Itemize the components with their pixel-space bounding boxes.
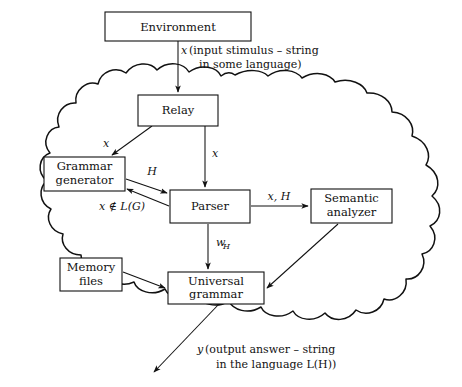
annotation-input-var: x <box>181 44 188 57</box>
node-parser-label: Parser <box>191 199 229 213</box>
edge-label-parser-to-universal-w-sub: H <box>222 242 231 251</box>
node-parser[interactable]: Parser <box>170 190 250 223</box>
diagram-canvas: Environment Relay Grammar generator Pars… <box>0 0 462 387</box>
annotation-input-line2: in some language) <box>199 58 302 71</box>
node-memory-files-label-line2: files <box>79 274 103 288</box>
edge-label-relay-to-parser-x: x <box>212 147 219 160</box>
node-grammar-generator-label-line1: Grammar <box>57 159 113 173</box>
node-relay[interactable]: Relay <box>138 95 218 126</box>
node-relay-label: Relay <box>162 103 195 117</box>
node-semantic-analyzer[interactable]: Semantic analyzer <box>311 189 392 223</box>
edge-label-relay-to-grammar-x: x <box>103 137 110 150</box>
edge-label-grammar-to-parser-H: H <box>146 165 157 178</box>
node-universal-grammar-label-line2: grammar <box>189 287 243 301</box>
node-grammar-generator[interactable]: Grammar generator <box>44 157 125 191</box>
node-environment[interactable]: Environment <box>105 12 251 41</box>
diagram-svg: Environment Relay Grammar generator Pars… <box>0 0 462 387</box>
annotation-output-line2: in the language L(H)) <box>216 358 336 371</box>
edge-label-parser-to-grammar-reject: x ∉ L(G) <box>99 200 145 213</box>
node-universal-grammar-label-line1: Universal <box>188 274 244 288</box>
annotation-output-var: y <box>196 343 204 356</box>
annotation-input: x (input stimulus – string in some langu… <box>181 44 319 71</box>
annotation-input-line1: (input stimulus – string <box>189 44 319 57</box>
node-universal-grammar[interactable]: Universal grammar <box>168 272 264 304</box>
node-environment-label: Environment <box>140 20 216 34</box>
edge-label-parser-to-semantic: x, H <box>268 190 291 203</box>
node-semantic-analyzer-label-line1: Semantic <box>324 191 379 205</box>
node-semantic-analyzer-label-line2: analyzer <box>327 205 377 219</box>
node-memory-files[interactable]: Memory files <box>60 258 122 291</box>
edge-universal-grammar-output <box>154 304 219 372</box>
annotation-output: y (output answer – string in the languag… <box>196 343 336 371</box>
node-grammar-generator-label-line2: generator <box>56 173 114 187</box>
annotation-output-line1: (output answer – string <box>205 343 335 356</box>
node-memory-files-label-line1: Memory <box>67 260 116 274</box>
